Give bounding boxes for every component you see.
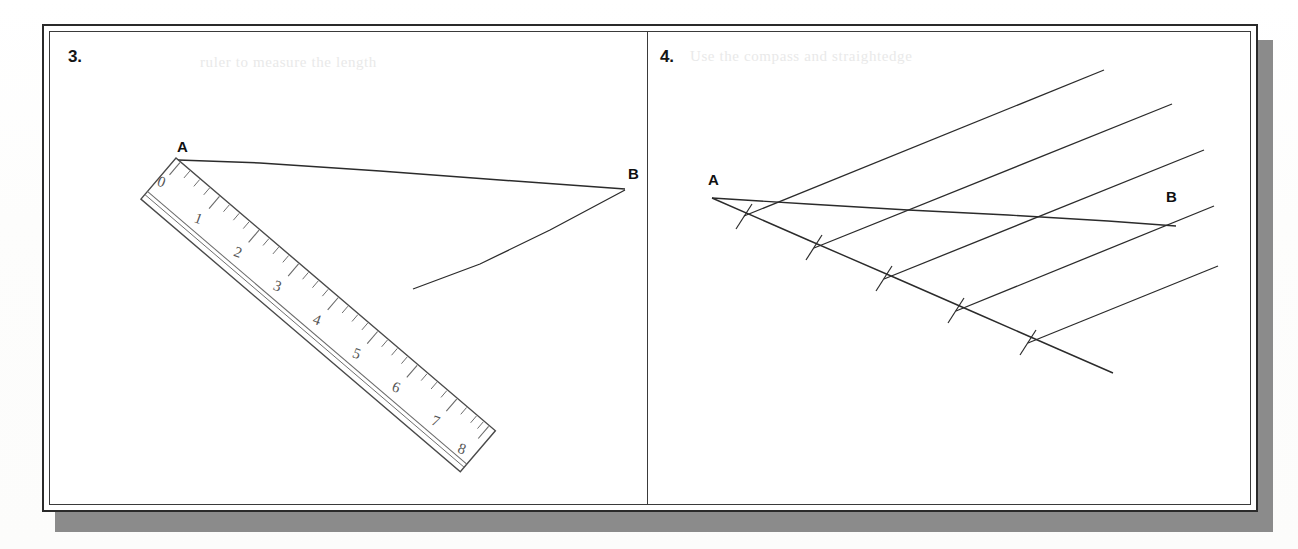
auxiliary-ray-panel-4	[712, 198, 1113, 373]
parallel-line-4	[956, 206, 1214, 311]
segment-five-to-b-panel-3	[413, 190, 625, 289]
parallel-line-2	[814, 104, 1172, 248]
parallel-line-3	[884, 150, 1204, 279]
ruler-digit-0: 0	[155, 173, 168, 191]
panel-4-drawing	[648, 32, 1252, 510]
figure-inner-frame: 3. ruler to measure the length A B	[49, 31, 1251, 505]
ruler-digit-4: 4	[311, 311, 324, 329]
parallel-line-5	[1028, 266, 1218, 343]
parallel-lines-panel-4	[744, 70, 1218, 343]
ruler-digit-5: 5	[350, 345, 363, 363]
ray-tick-marks-panel-4	[736, 204, 1036, 355]
segment-ab-panel-3	[178, 160, 625, 189]
ruler-bevel-line-2	[145, 194, 464, 467]
ruler-digit-8: 8	[456, 440, 469, 458]
worksheet-page: 3. ruler to measure the length A B	[0, 0, 1298, 549]
figure-outer-frame: 3. ruler to measure the length A B	[42, 24, 1258, 512]
ruler-minor-ticks	[184, 171, 483, 429]
ruler-digit-3: 3	[271, 277, 284, 295]
ruler: 0 1 2 3 4 5 6 7 8	[139, 157, 495, 472]
ruler-digit-1: 1	[192, 210, 205, 228]
panel-4: 4. Use the compass and straightedge A B	[648, 32, 1252, 504]
ruler-digits: 0 1 2 3 4 5 6 7 8	[146, 171, 478, 460]
ruler-digit-6: 6	[390, 378, 403, 396]
parallel-line-1	[744, 70, 1104, 216]
segment-ab-panel-4	[712, 198, 1176, 226]
ruler-digit-7: 7	[429, 412, 442, 430]
ruler-bevel-line	[147, 191, 466, 464]
panel-3: 3. ruler to measure the length A B	[50, 32, 647, 504]
ruler-digit-2: 2	[232, 243, 245, 261]
panel-3-drawing: 0 1 2 3 4 5 6 7 8	[50, 32, 647, 510]
